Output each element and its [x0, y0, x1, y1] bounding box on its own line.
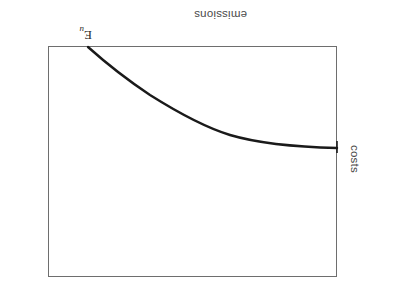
- rotated-figure-container: emissions costs Eu: [0, 0, 417, 283]
- curve-start-subscript: u: [80, 25, 85, 35]
- x-axis-label: costs: [349, 145, 361, 173]
- y-axis-label: emissions: [194, 9, 247, 21]
- emissions-cost-curve-svg: [0, 0, 417, 283]
- curve-start-symbol: E: [84, 28, 92, 43]
- curve-start-label: Eu: [80, 25, 92, 43]
- abatement-curve-path: [88, 47, 337, 148]
